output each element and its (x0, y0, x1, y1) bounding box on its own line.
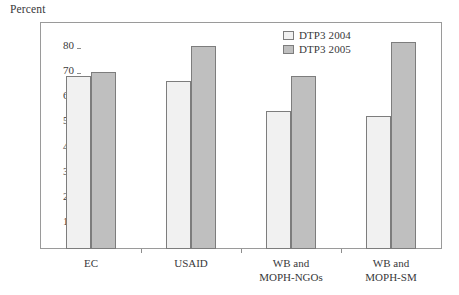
legend-swatch-icon-2005 (283, 45, 294, 54)
category-label-line: WB and (241, 257, 341, 271)
y-tick-mark (77, 73, 81, 74)
category-label-line: MOPH-NGOs (241, 271, 341, 285)
y-axis-label: Percent (10, 3, 46, 15)
legend-label-2005: DTP3 2005 (299, 43, 351, 56)
y-tick-mark (77, 48, 81, 49)
plot-area: 1020304050607080 (41, 23, 441, 249)
category-label-line: WB and (341, 257, 441, 271)
x-axis-category-label: USAID (141, 257, 241, 271)
legend-swatch-icon-2004 (283, 31, 294, 40)
category-label-line: MOPH-SM (341, 271, 441, 285)
x-axis-tick (241, 249, 242, 253)
y-tick-label: 70 (63, 65, 74, 76)
bar (266, 111, 291, 249)
category-label-line: EC (41, 257, 141, 271)
bar (66, 76, 91, 249)
legend-item-dtp3-2004: DTP3 2004 (283, 29, 351, 42)
bar (191, 46, 216, 249)
bar-chart: Percent 1020304050607080 ECUSAIDWB andMO… (0, 0, 459, 295)
x-axis-category-label: WB andMOPH-SM (341, 257, 441, 284)
legend: DTP3 2004 DTP3 2005 (283, 29, 351, 57)
bar (366, 116, 391, 249)
y-tick-label: 80 (63, 40, 74, 51)
bar (166, 81, 191, 249)
legend-item-dtp3-2005: DTP3 2005 (283, 43, 351, 56)
x-axis-tick (341, 249, 342, 253)
bar (391, 42, 416, 249)
x-axis-category-label: WB andMOPH-NGOs (241, 257, 341, 284)
bar (91, 72, 116, 249)
x-axis-category-label: EC (41, 257, 141, 271)
x-axis-tick (141, 249, 142, 253)
bar (291, 76, 316, 249)
category-label-line: USAID (141, 257, 241, 271)
legend-label-2004: DTP3 2004 (299, 29, 351, 42)
